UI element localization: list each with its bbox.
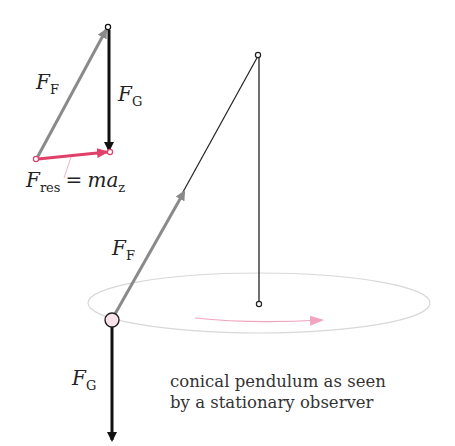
gravity-force-label: FG [72,366,96,390]
pendulum-thread [183,56,258,192]
diagram-caption: conical pendulum as seen by a stationary… [170,371,386,413]
label-rhs: ma [87,168,118,192]
label-symbol: F [72,366,86,390]
label-rhs-subscript: z [118,180,125,195]
triangle-ff-label: FF [36,70,59,94]
triangle-left-point [33,156,38,161]
caption-line-2: by a stationary observer [170,392,386,413]
label-subscript: G [86,378,96,393]
resultant-force-arrow [38,152,107,159]
label-subscript: G [132,94,142,109]
triangle-right-point [107,149,112,154]
diagram-canvas: FF FG Fres = maz FF FG conical pendulum … [0,0,455,446]
label-symbol: F [118,82,132,106]
label-subscript: res [40,180,61,195]
equals-sign: = [66,168,83,192]
label-symbol: F [36,70,50,94]
thread-force-label: FF [112,236,135,260]
label-subscript: F [126,248,135,263]
triangle-top-point [105,24,110,29]
triangle-thread-force-arrow [37,30,106,158]
label-symbol: F [26,168,40,192]
label-subscript: F [50,82,59,97]
triangle-fg-label: FG [118,82,142,106]
pivot-point [255,52,260,57]
resultant-force-label: Fres = maz [26,168,125,192]
axis-bottom-point [256,301,261,306]
caption-line-1: conical pendulum as seen [170,371,386,392]
pendulum-bob [105,313,119,327]
label-symbol: F [112,236,126,260]
rotation-direction-arrow [195,318,322,322]
